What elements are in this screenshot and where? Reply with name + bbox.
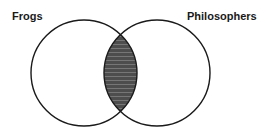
venn-diagram [0,0,273,137]
